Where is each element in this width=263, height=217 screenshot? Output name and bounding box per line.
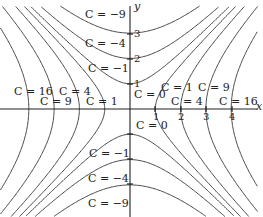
x-tick-4: 4 xyxy=(229,112,235,122)
y-tick-2: 2 xyxy=(134,54,140,64)
label-c-0-lower: C = 0 xyxy=(136,120,168,131)
label-c-minus-9-bottom: C = −9 xyxy=(88,198,129,209)
label-c-16-right: C = 16 xyxy=(219,96,258,107)
x-tick-3: 3 xyxy=(203,112,209,122)
contour-c-1 xyxy=(155,7,240,217)
label-c-4-right: C = 4 xyxy=(171,96,203,107)
contour-curves xyxy=(0,6,257,217)
y-tick-3: 3 xyxy=(134,29,140,39)
label-c-minus-4-bottom: C = −4 xyxy=(88,173,129,184)
x-tick-2: 2 xyxy=(178,112,184,122)
label-c-1-right: C = 1 xyxy=(161,82,193,93)
contour-c-4 xyxy=(11,7,79,217)
label-c-minus-9-top: C = −9 xyxy=(85,9,126,20)
y-axis-label: y xyxy=(134,1,140,12)
contour-c-4 xyxy=(181,7,249,217)
label-c-minus-1-top: C = −1 xyxy=(88,63,129,74)
label-c-9-right: C = 9 xyxy=(198,82,230,93)
label-c-9-left: C = 9 xyxy=(40,96,72,107)
label-c-1-left: C = 1 xyxy=(86,96,118,107)
label-c-minus-1-bottom: C = −1 xyxy=(89,148,130,159)
contour-c-9 xyxy=(0,7,54,215)
label-c-minus-4-top: C = −4 xyxy=(85,38,126,49)
contour-plot xyxy=(0,0,263,217)
